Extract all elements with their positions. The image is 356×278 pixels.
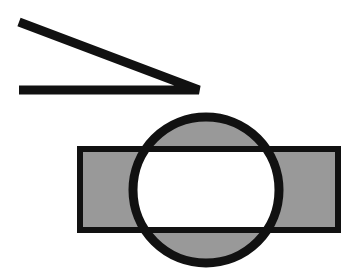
figure-canvas: Two black line segments forming a narrow… [0, 0, 356, 278]
geometric-figure [0, 0, 356, 278]
